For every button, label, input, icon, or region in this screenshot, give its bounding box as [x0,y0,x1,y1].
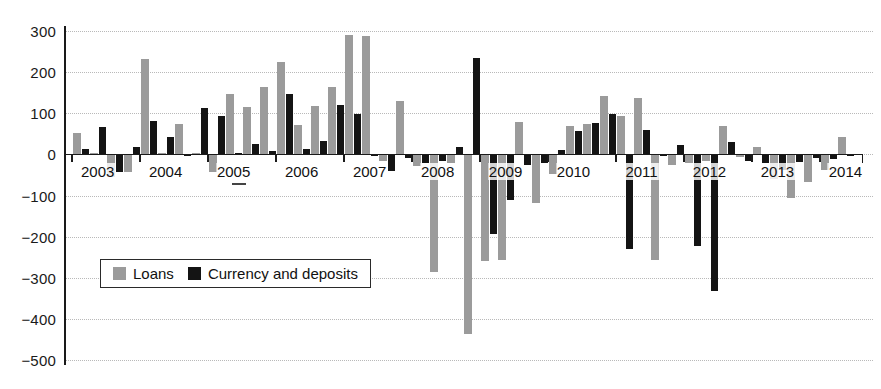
x-axis-tick [615,154,617,162]
bar-currency-and-deposits [116,154,123,172]
bar-currency-and-deposits [201,108,208,154]
bar-currency-and-deposits [167,137,174,154]
bar-loans [464,154,471,334]
bar-loans [583,124,590,154]
x-axis-tick [207,154,209,162]
x-axis-tick [683,154,685,162]
bar-loans [600,96,607,155]
scan-artifact-underline [232,183,246,185]
x-axis-tick-label: 2007 [352,163,387,180]
x-axis-tick-label: 2008 [420,163,455,180]
bar-loans [719,126,726,155]
y-axis-tick-label: 100 [30,105,56,122]
bar-currency-and-deposits [524,154,531,165]
gridline [64,113,873,115]
legend-item-loans: Loans [113,265,174,282]
bar-currency-and-deposits [218,116,225,155]
y-axis-tick-label: −100 [21,187,56,204]
x-axis-end-cap [862,154,864,163]
bar-currency-and-deposits [286,94,293,154]
bar-currency-and-deposits [762,154,769,162]
x-axis-tick [819,154,821,162]
plot-inner: 2003200420052006200720082009201020112012… [64,0,873,389]
y-axis-tick-label: −500 [21,352,56,369]
bar-loans [345,35,352,154]
bar-loans [668,154,675,165]
bar-loans [804,154,811,181]
loans-swatch-icon [113,267,126,280]
bar-loans [566,126,573,154]
bar-currency-and-deposits [422,154,429,163]
bar-currency-and-deposits [643,130,650,155]
gridline [64,72,873,74]
legend-label-currency-and-deposits: Currency and deposits [208,265,358,282]
x-axis-tick [139,154,141,162]
x-axis-tick-label: 2006 [284,163,319,180]
x-axis-tick-label: 2010 [556,163,591,180]
bar-loans [515,122,522,154]
gridline [64,31,873,33]
bar-loans [124,154,131,171]
bar-loans [685,154,692,163]
bar-loans [532,154,539,203]
x-axis-tick [411,154,413,162]
bar-currency-and-deposits [592,123,599,154]
bar-currency-and-deposits [439,154,446,161]
x-axis-tick-label: 2011 [624,163,658,180]
bar-loans [362,36,369,155]
x-axis-tick-label: 2004 [148,163,183,180]
bar-loans [379,154,386,161]
x-axis-tick [547,154,549,162]
y-axis-tick-label: 200 [30,64,56,81]
y-axis-tick-label: −300 [21,269,56,286]
bar-loans [294,125,301,155]
x-axis-tick-label: 2012 [692,163,727,180]
x-axis-tick [343,154,345,162]
legend-label-loans: Loans [133,265,174,282]
x-axis-tick-label: 2003 [80,163,115,180]
legend-item-currency-and-deposits: Currency and deposits [188,265,358,282]
plot-area: 2003200420052006200720082009201020112012… [64,0,873,389]
gridline [64,360,873,362]
y-axis-line [64,26,66,365]
bar-currency-and-deposits [575,131,582,154]
bar-currency-and-deposits [337,105,344,154]
bar-currency-and-deposits [150,121,157,155]
bar-loans [175,124,182,154]
bar-chart: 3002001000−100−200−300−400−500 200320042… [0,0,881,389]
bar-loans [277,62,284,154]
y-axis-tick-label: 0 [47,146,56,163]
y-axis-tick-label: 300 [30,23,56,40]
bar-loans [141,59,148,154]
y-axis-tick-label: −400 [21,310,56,327]
bar-loans [311,106,318,154]
x-axis-tick-label: 2014 [828,163,863,180]
x-axis-tick-label: 2005 [216,163,251,180]
x-axis-tick [71,154,73,162]
bar-loans [73,133,80,154]
bar-loans [838,137,845,154]
bar-loans [328,87,335,154]
bar-currency-and-deposits [252,144,259,155]
bar-currency-and-deposits [609,114,616,154]
x-axis-tick-label: 2009 [488,163,523,180]
x-axis-tick-label: 2013 [760,163,795,180]
bar-loans [260,87,267,154]
bar-loans [447,154,454,162]
zero-baseline [64,154,862,156]
bar-loans [243,107,250,155]
x-axis-tick [479,154,481,162]
bar-currency-and-deposits [388,154,395,170]
bar-currency-and-deposits [728,142,735,155]
bar-loans [634,98,641,154]
bar-loans [226,94,233,154]
currency-deposits-swatch-icon [188,267,201,280]
bar-loans [617,116,624,154]
x-axis-tick [275,154,277,162]
bar-currency-and-deposits [473,58,480,155]
x-axis-tick [751,154,753,162]
chart-legend: Loans Currency and deposits [100,259,371,288]
y-axis: 3002001000−100−200−300−400−500 [0,0,56,389]
bar-currency-and-deposits [796,154,803,162]
bar-currency-and-deposits [320,141,327,155]
